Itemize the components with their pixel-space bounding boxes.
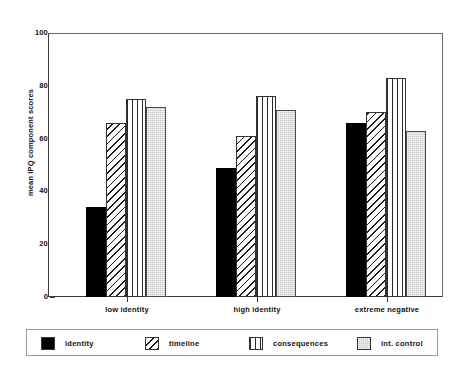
bar-high-identity-identity [216,168,236,297]
y-tick-mark-0 [50,297,55,298]
bars-layer [49,33,442,297]
y-tick-label-100: 100 [22,29,48,37]
y-axis-title: mean IPQ component scores [26,53,35,233]
bar-extreme-negative-consequences [386,78,406,297]
x-tick-mark-high-identity [257,297,258,302]
legend-label-int-control: int. control [381,339,423,348]
legend-label-timeline: timeline [169,339,199,348]
legend-swatch-identity-icon [41,337,55,350]
legend: identity timeline consequences int. cont… [26,329,438,356]
bar-low-identity-int-control [146,107,166,297]
legend-entry-identity: identity [41,336,94,350]
bar-group-low-identity [86,33,168,297]
legend-label-consequences: consequences [273,339,328,348]
legend-swatch-consequences-icon [249,337,263,350]
x-tick-mark-extreme-negative [387,297,388,302]
y-tick-label-0: 0 [22,293,48,301]
legend-swatch-timeline-icon [145,337,159,350]
bar-group-extreme-negative [346,33,428,297]
bar-low-identity-timeline [106,123,126,297]
x-category-label-extreme-negative: extreme negative [355,305,419,314]
x-tick-mark-low-identity [127,297,128,302]
legend-swatch-int-control-icon [357,337,371,350]
bar-group-high-identity [216,33,298,297]
bar-chart-figure: 100 80 60 40 20 0 mean IPQ component sco… [0,0,455,366]
bar-high-identity-consequences [256,96,276,297]
bar-low-identity-consequences [126,99,146,297]
x-category-label-low-identity: low identity [105,305,149,314]
bar-low-identity-identity [86,207,106,297]
legend-entry-int-control: int. control [357,336,423,350]
legend-entry-timeline: timeline [145,336,199,350]
x-category-label-high-identity: high identity [233,305,280,314]
bar-high-identity-int-control [276,110,296,297]
bar-extreme-negative-timeline [366,112,386,297]
bar-extreme-negative-identity [346,123,366,297]
bar-high-identity-timeline [236,136,256,297]
legend-entry-consequences: consequences [249,336,328,350]
y-tick-label-20: 20 [22,240,48,248]
bar-extreme-negative-int-control [406,131,426,297]
legend-label-identity: identity [65,339,94,348]
